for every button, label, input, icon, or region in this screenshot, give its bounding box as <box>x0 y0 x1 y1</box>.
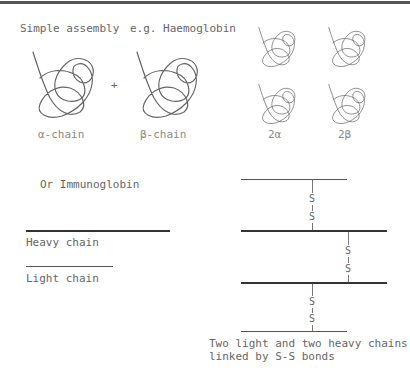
sulfur-1b: S <box>309 211 315 223</box>
simple-assembly-label: Simple assembly <box>20 22 119 35</box>
alpha-chain-coil-icon <box>30 48 100 123</box>
disulfide-bond-1 <box>312 180 313 231</box>
light-chain-label: Light chain <box>26 272 99 285</box>
alpha-chain-label: α-chain <box>38 128 84 141</box>
heavy-chain-2 <box>241 282 387 284</box>
disulfide-bond-2 <box>348 232 349 283</box>
haemoglobin-example-label: e.g. Haemoglobin <box>130 22 236 35</box>
tetramer-alpha-coil-1-icon <box>257 25 299 67</box>
beta-chain-label: β-chain <box>140 128 186 141</box>
plus-sign: + <box>111 79 118 92</box>
light-chain-legend-line <box>26 266 113 267</box>
tetramer-alpha-coil-2-icon <box>257 82 299 124</box>
heavy-chain-1 <box>241 230 387 232</box>
tetramer-beta-coil-1-icon <box>327 25 369 67</box>
caption-line-2: linked by S-S bonds <box>209 350 335 363</box>
light-chain-top <box>241 179 347 180</box>
sulfur-2b: S <box>345 263 351 275</box>
immunoglobin-title: Or Immunoglobin <box>40 178 139 191</box>
sulfur-3a: S <box>309 296 315 308</box>
heavy-chain-legend-line <box>26 230 170 232</box>
tetramer-2alpha-label: 2α <box>268 128 281 141</box>
tetramer-beta-coil-2-icon <box>327 82 369 124</box>
caption-line-1: Two light and two heavy chains <box>209 337 408 350</box>
beta-chain-coil-icon <box>134 48 204 123</box>
sulfur-3b: S <box>309 313 315 325</box>
tetramer-2beta-label: 2β <box>338 128 351 141</box>
light-chain-bottom <box>241 331 347 332</box>
sulfur-2a: S <box>345 245 351 257</box>
heavy-chain-label: Heavy chain <box>26 236 99 249</box>
sulfur-1a: S <box>309 193 315 205</box>
top-border <box>0 1 410 4</box>
